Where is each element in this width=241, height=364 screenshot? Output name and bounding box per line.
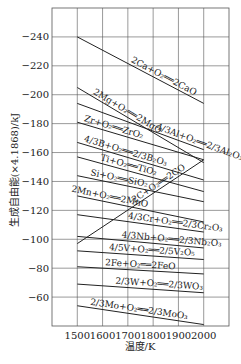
- y-tick-label: −180: [22, 118, 49, 129]
- x-axis-title: 温度/K: [125, 340, 156, 352]
- x-tick-label: 1700: [115, 330, 140, 341]
- x-axis-ticks: 150016001700180019002000: [65, 330, 217, 341]
- reaction-label: 2/3Mo+O₂══2/3MoO₃: [90, 297, 189, 322]
- y-axis-title: 生成自由能(×4.1868)/kJ: [8, 113, 20, 228]
- y-tick-label: −240: [22, 31, 49, 42]
- reaction-label: 4/3Cr+O₂══2/3Cr₂O₃: [128, 211, 224, 234]
- y-tick-label: −80: [28, 263, 49, 274]
- ellingham-chart: −240−220−200−180−160−140−120−100−80−60 1…: [0, 0, 241, 364]
- x-tick-label: 1500: [65, 330, 90, 341]
- reaction-label: 2Ca+O₂══2CaO: [129, 55, 198, 98]
- y-tick-label: −160: [22, 147, 49, 158]
- x-tick-label: 1600: [90, 330, 115, 341]
- x-tick-label: 1900: [166, 330, 191, 341]
- y-axis-ticks: −240−220−200−180−160−140−120−100−80−60: [22, 31, 49, 302]
- y-tick-label: −100: [22, 234, 49, 245]
- y-tick-label: −220: [22, 60, 49, 71]
- reaction-label: 4/3Al+O₂══2/3Al₂O₃: [155, 122, 241, 163]
- y-tick-label: −60: [28, 292, 49, 303]
- y-tick-label: −120: [22, 205, 49, 216]
- y-tick-label: −200: [22, 89, 49, 100]
- x-tick-label: 1800: [140, 330, 165, 341]
- x-tick-label: 2000: [191, 330, 216, 341]
- y-tick-label: −140: [22, 176, 49, 187]
